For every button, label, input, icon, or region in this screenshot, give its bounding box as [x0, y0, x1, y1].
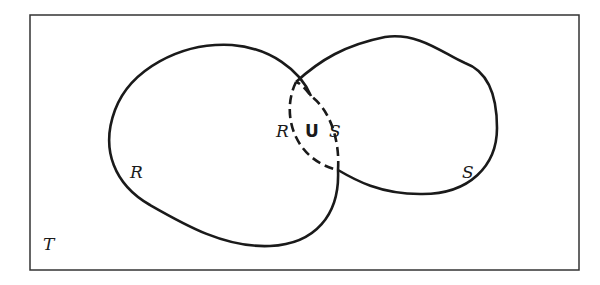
set-s-label: S [462, 162, 474, 182]
venn-diagram: R S T R U S [0, 0, 600, 285]
set-r-label: R [129, 162, 143, 182]
universe-label: T [43, 234, 56, 254]
union-left-label: R [275, 121, 289, 141]
union-right-label: S [329, 121, 341, 141]
union-operator-label: U [305, 121, 319, 141]
